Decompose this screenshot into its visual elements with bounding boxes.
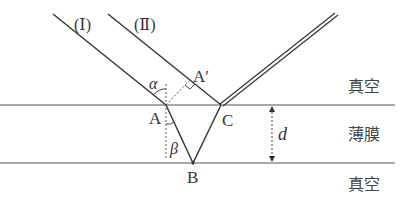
beta-arc — [166, 122, 174, 124]
arrow-down-icon — [269, 156, 275, 162]
thickness-label: d — [278, 124, 288, 144]
point-b-marker — [192, 162, 195, 165]
region-middle-label: 薄膜 — [348, 125, 380, 144]
reflected-ray-a — [220, 13, 335, 104]
ray-1-label: (Ⅰ) — [74, 16, 91, 34]
alpha-label: α — [149, 75, 158, 92]
region-bottom-label: 真空 — [348, 175, 380, 194]
point-c-label: C — [222, 111, 233, 130]
point-a-label: A — [149, 109, 162, 128]
arrow-up-icon — [269, 106, 275, 112]
region-top-label: 真空 — [348, 77, 380, 96]
thin-film-diagram: (Ⅰ) (Ⅱ) A′ A C B α β d 真空 薄膜 真空 — [0, 0, 417, 204]
point-b-label: B — [187, 168, 198, 187]
wavefront-a-aprime — [166, 80, 190, 105]
beta-label: β — [169, 140, 178, 158]
incident-ray-2 — [108, 14, 221, 105]
reflected-ray-b — [223, 15, 338, 106]
point-a-prime-label: A′ — [193, 67, 209, 86]
ray-2-label: (Ⅱ) — [134, 16, 156, 34]
